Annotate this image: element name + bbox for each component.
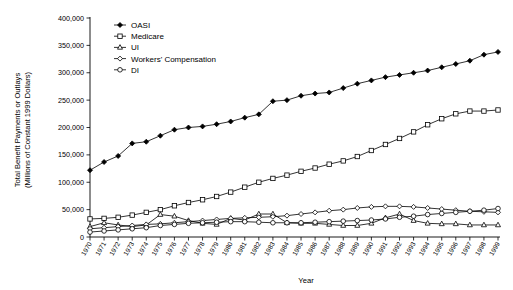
data-point-marker bbox=[118, 23, 123, 28]
x-tick-label: 1983 bbox=[263, 240, 277, 256]
x-tick-label: 1979 bbox=[206, 240, 220, 256]
x-tick-label: 1975 bbox=[150, 240, 164, 256]
x-tick-label: 1971 bbox=[94, 240, 108, 256]
data-point-marker bbox=[425, 123, 429, 127]
data-point-marker bbox=[439, 221, 444, 226]
data-point-marker bbox=[369, 148, 373, 152]
data-point-marker bbox=[242, 115, 247, 120]
x-tick-label: 1994 bbox=[417, 240, 431, 256]
data-point-marker bbox=[116, 228, 121, 233]
data-point-marker bbox=[257, 220, 262, 225]
data-point-marker bbox=[454, 112, 458, 116]
data-point-marker bbox=[144, 225, 149, 230]
data-point-marker bbox=[172, 127, 177, 132]
data-point-marker bbox=[411, 204, 416, 209]
data-point-marker bbox=[425, 205, 430, 210]
data-point-marker bbox=[496, 49, 501, 54]
series-line bbox=[90, 206, 498, 228]
data-point-marker bbox=[243, 185, 247, 189]
legend-item-workers-compensation[interactable]: Workers' Compensation bbox=[114, 55, 216, 64]
x-tick-label: 1980 bbox=[220, 240, 234, 256]
x-tick-label: 1995 bbox=[431, 240, 445, 256]
x-tick-label: 1988 bbox=[333, 240, 347, 256]
y-tick-label: 100,000 bbox=[58, 178, 84, 187]
data-point-marker bbox=[118, 68, 123, 73]
data-point-marker bbox=[496, 206, 501, 211]
legend-label: UI bbox=[131, 43, 139, 52]
y-tick-label: 0 bbox=[80, 233, 84, 242]
data-point-marker bbox=[355, 218, 360, 223]
data-point-marker bbox=[271, 220, 276, 225]
legend-label: DI bbox=[131, 66, 139, 75]
x-tick-label: 1976 bbox=[164, 240, 178, 256]
data-point-marker bbox=[411, 70, 416, 75]
data-point-marker bbox=[355, 205, 360, 210]
x-tick-label: 1978 bbox=[192, 240, 206, 256]
series-line bbox=[90, 209, 498, 233]
data-point-marker bbox=[369, 78, 374, 83]
y-tick-label: 200,000 bbox=[58, 123, 84, 132]
data-point-marker bbox=[130, 226, 135, 231]
data-point-marker bbox=[158, 133, 163, 138]
series-di bbox=[88, 206, 501, 234]
legend-label: Medicare bbox=[131, 32, 164, 41]
data-point-marker bbox=[341, 219, 346, 224]
data-point-marker bbox=[144, 210, 148, 214]
x-tick-label: 1981 bbox=[234, 240, 248, 256]
y-axis-title-line1: Total Benefit Payments or Outlays bbox=[13, 73, 22, 188]
data-point-marker bbox=[439, 65, 444, 70]
data-point-marker bbox=[453, 61, 458, 66]
x-tick-label: 1998 bbox=[474, 240, 488, 256]
chart-legend: OASIMedicareUIWorkers' CompensationDI bbox=[114, 21, 216, 75]
data-point-marker bbox=[172, 222, 177, 227]
x-tick-label: 1985 bbox=[291, 240, 305, 256]
data-point-marker bbox=[313, 91, 318, 96]
data-point-marker bbox=[200, 220, 205, 225]
y-tick-label: 400,000 bbox=[58, 14, 84, 23]
data-point-marker bbox=[481, 222, 486, 227]
y-axis-title-group: Total Benefit Payments or Outlays (Milli… bbox=[13, 72, 32, 189]
data-point-marker bbox=[397, 72, 402, 77]
x-tick-label: 1997 bbox=[460, 240, 474, 256]
data-point-marker bbox=[468, 209, 473, 214]
data-point-marker bbox=[397, 215, 402, 220]
x-tick-label: 1996 bbox=[445, 240, 459, 256]
x-tick-label: 1986 bbox=[305, 240, 319, 256]
data-point-marker bbox=[118, 56, 123, 61]
data-point-marker bbox=[383, 204, 388, 209]
series-line bbox=[90, 214, 498, 227]
data-point-marker bbox=[327, 208, 332, 213]
data-point-marker bbox=[341, 207, 346, 212]
data-point-marker bbox=[355, 154, 359, 158]
data-point-marker bbox=[440, 117, 444, 121]
legend-item-di[interactable]: DI bbox=[114, 66, 139, 75]
data-point-marker bbox=[102, 159, 107, 164]
legend-item-medicare[interactable]: Medicare bbox=[114, 32, 164, 41]
data-point-marker bbox=[299, 220, 304, 225]
legend-item-oasi[interactable]: OASI bbox=[114, 21, 150, 30]
data-point-marker bbox=[341, 86, 346, 91]
data-point-marker bbox=[327, 219, 332, 224]
data-point-marker bbox=[285, 173, 289, 177]
x-tick-label: 1982 bbox=[248, 240, 262, 256]
data-point-marker bbox=[313, 166, 317, 170]
data-point-marker bbox=[214, 122, 219, 127]
data-point-marker bbox=[285, 220, 290, 225]
data-point-marker bbox=[102, 229, 107, 234]
data-point-marker bbox=[482, 109, 486, 113]
data-point-marker bbox=[228, 190, 232, 194]
x-tick-label: 1993 bbox=[403, 240, 417, 256]
legend-item-ui[interactable]: UI bbox=[114, 43, 139, 52]
data-point-marker bbox=[228, 219, 233, 224]
data-point-marker bbox=[355, 81, 360, 86]
data-point-marker bbox=[158, 212, 163, 217]
data-point-marker bbox=[313, 210, 318, 215]
data-point-marker bbox=[88, 168, 93, 173]
data-point-marker bbox=[482, 208, 487, 213]
data-point-marker bbox=[313, 220, 318, 225]
data-point-marker bbox=[118, 45, 123, 50]
data-point-marker bbox=[327, 90, 332, 95]
data-point-marker bbox=[284, 98, 289, 103]
x-tick-label: 1992 bbox=[389, 240, 403, 256]
data-point-marker bbox=[411, 130, 415, 134]
